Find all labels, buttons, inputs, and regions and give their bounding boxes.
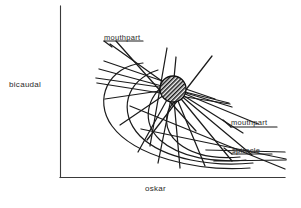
annotation-label-mouthpart-top: mouthpart — [104, 33, 140, 42]
leader-mouthpart-right — [223, 120, 231, 127]
figure-container: bicaudal oskar mouthpart mouthpart spira… — [0, 0, 301, 208]
y-axis-label: bicaudal — [9, 80, 41, 89]
node-disc — [160, 76, 186, 102]
center-node — [160, 76, 186, 102]
annotation-label-spiracle: spiracle — [232, 146, 260, 155]
chord-9 — [214, 160, 286, 161]
annotation-label-mouthpart-right: mouthpart — [231, 118, 267, 127]
fan-diagram-svg — [0, 0, 301, 208]
x-axis-label: oskar — [145, 184, 166, 193]
